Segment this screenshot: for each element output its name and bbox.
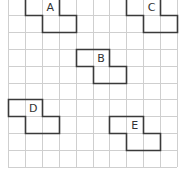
shape-label: B bbox=[97, 52, 105, 65]
shape-label: E bbox=[131, 119, 138, 132]
shape-label: A bbox=[46, 1, 54, 14]
shape-c: C bbox=[127, 0, 178, 33]
shape-a: A bbox=[26, 0, 77, 33]
shape-label: D bbox=[29, 102, 37, 115]
grid-diagram: ABCDE bbox=[0, 0, 183, 176]
shape-label: C bbox=[148, 1, 156, 14]
